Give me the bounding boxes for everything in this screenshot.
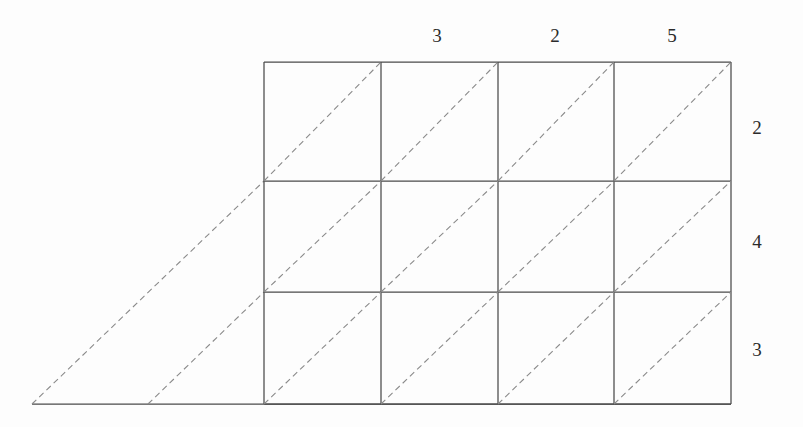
row-label-2: 4 (737, 232, 777, 251)
column-label-1: 3 (417, 26, 457, 45)
cell-diagonal-r2c2 (381, 181, 498, 292)
extension-diagonals-group (32, 181, 264, 404)
grid-vertical-lines (264, 62, 731, 404)
cell-diagonal-r2c4 (614, 181, 731, 292)
grid-diagram-svg (0, 0, 803, 427)
extension-diagonal-1 (32, 181, 264, 404)
cell-diagonal-r3c1 (264, 292, 381, 404)
row-label-3: 3 (737, 340, 777, 359)
figure-canvas: 3 2 5 2 4 3 (0, 0, 803, 427)
cell-diagonal-r1c3 (498, 62, 614, 181)
cell-diagonal-r3c4 (614, 292, 731, 404)
column-label-3: 5 (652, 26, 692, 45)
row-label-1: 2 (737, 118, 777, 137)
extension-diagonal-2 (148, 292, 264, 404)
cell-diagonal-r1c4 (614, 62, 731, 181)
cell-diagonal-r2c1 (264, 181, 381, 292)
cell-diagonal-r2c3 (498, 181, 614, 292)
cell-diagonal-r3c2 (381, 292, 498, 404)
column-label-2: 2 (535, 26, 575, 45)
cell-diagonal-r1c1 (264, 62, 381, 181)
cell-diagonal-r3c3 (498, 292, 614, 404)
cell-diagonal-r1c2 (381, 62, 498, 181)
